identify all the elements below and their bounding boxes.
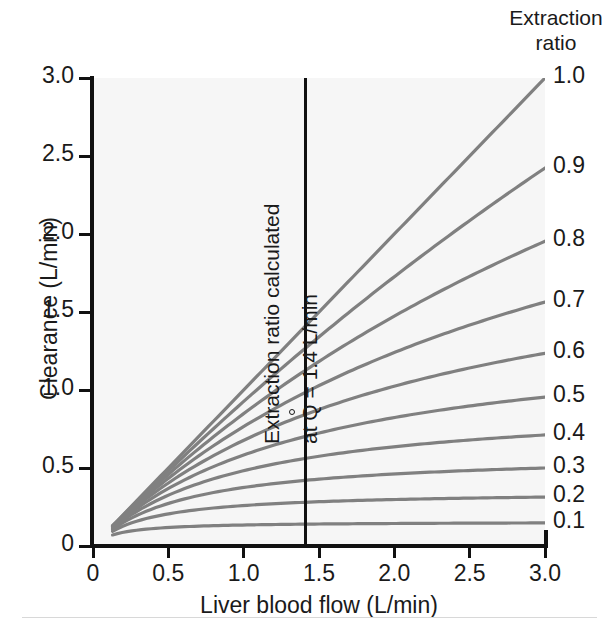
legend-label-er-0-9: 0.9 [553,152,585,179]
x-axis-right-cap [544,530,548,548]
curve-er-0-4 [113,435,545,528]
clearance-vs-liver-blood-flow-chart: 00.51.01.52.02.53.0 00.51.01.52.02.53.0 … [0,0,615,621]
x-tick-mark [92,547,95,558]
legend-label-er-0-8: 0.8 [553,225,585,252]
annotation-suffix: = 1.4 L/min [298,294,321,404]
legend-label-er-0-1: 0.1 [553,507,585,534]
annotation-extraction-ratio-calculated: Extraction ratio calculated [260,204,284,444]
y-tick-mark [79,467,90,470]
y-tick-label: 3.0 [2,62,74,89]
y-tick-mark [79,77,90,80]
annotation-prefix: at [298,421,321,444]
y-tick-mark [79,311,90,314]
x-tick-mark [167,547,170,558]
y-axis-line [90,76,94,548]
y-tick-mark [79,545,90,548]
x-tick-mark [468,547,471,558]
q-dot-symbol: Q [298,404,322,420]
x-tick-label: 2.0 [354,560,434,587]
y-tick-mark [79,389,90,392]
legend-label-er-0-7: 0.7 [553,286,585,313]
legend-label-er-0-2: 0.2 [553,481,585,508]
page-divider [22,617,597,618]
legend-title-line2: ratio [497,30,615,55]
x-tick-mark [393,547,396,558]
legend-label-er-0-6: 0.6 [553,337,585,364]
q-letter: Q [298,404,321,420]
q-overdot-icon [289,409,295,415]
y-tick-mark [79,233,90,236]
legend-title: Extraction ratio [497,5,615,55]
x-tick-label: 2.5 [430,560,510,587]
curve-er-1-0 [113,78,545,526]
legend-title-line1: Extraction [509,6,602,29]
legend-label-er-0-3: 0.3 [553,452,585,479]
x-tick-label: 1.5 [279,560,359,587]
curve-er-0-1 [113,523,545,535]
x-tick-label: 1.0 [204,560,284,587]
x-tick-label: 3.0 [505,560,585,587]
x-tick-mark [544,547,547,558]
x-tick-mark [318,547,321,558]
x-axis-title: Liver blood flow (L/min) [93,592,545,619]
legend-label-er-1-0: 1.0 [553,62,585,89]
y-tick-label: 0 [2,530,74,557]
x-tick-label: 0 [53,560,133,587]
annotation-flow-value: at Q = 1.4 L/min [298,294,322,444]
legend-label-er-0-5: 0.5 [553,381,585,408]
y-axis-title: Clearance (L/min) [36,139,63,479]
y-tick-mark [79,155,90,158]
legend-label-er-0-4: 0.4 [553,419,585,446]
x-tick-mark [242,547,245,558]
x-tick-label: 0.5 [128,560,208,587]
